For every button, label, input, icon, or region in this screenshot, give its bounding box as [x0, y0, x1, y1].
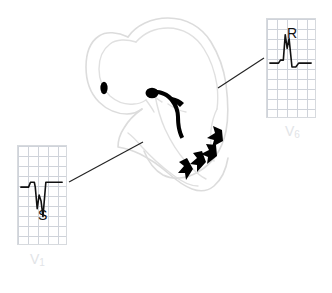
lead-label-v1-subscript: 1 — [39, 257, 45, 268]
wave-label-r: R — [287, 26, 297, 40]
lead-label-v1-text: V — [30, 251, 39, 267]
leader-line-v6 — [218, 58, 264, 88]
leader-line-v1 — [69, 142, 143, 182]
leader-lines — [69, 58, 264, 182]
lead-label-v6-text: V — [285, 123, 294, 139]
ecg-trace-v1 — [18, 146, 66, 244]
sa-node-marker — [100, 82, 107, 94]
depolarization-arrows — [178, 126, 223, 180]
lead-label-v6: V6 — [285, 124, 300, 138]
lead-label-v6-subscript: 6 — [294, 129, 300, 140]
figure-canvas: S R V1 V6 — [0, 0, 332, 293]
depolarization-arrow-1 — [207, 126, 223, 147]
conduction-bundle — [146, 88, 185, 139]
wave-label-s: S — [38, 208, 47, 222]
ecg-strip-v1 — [17, 145, 67, 245]
lead-label-v1: V1 — [30, 252, 45, 266]
